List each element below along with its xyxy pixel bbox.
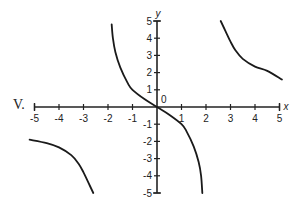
- x-tick-label: 2: [203, 113, 209, 124]
- y-tick-label: -2: [143, 136, 152, 147]
- y-tick-label: 1: [146, 84, 152, 95]
- origin-label: 0: [161, 94, 167, 105]
- curve-right-branch: [221, 21, 282, 79]
- y-axis-label: y: [155, 8, 162, 19]
- x-axis-label: x: [283, 101, 290, 112]
- curve-left-branch: [30, 140, 94, 193]
- y-tick-label: -1: [143, 119, 152, 130]
- x-tick-label: -1: [128, 113, 137, 124]
- y-tick-label: 5: [146, 16, 152, 27]
- y-tick-label: -4: [143, 170, 152, 181]
- y-tick-label: -3: [143, 153, 152, 164]
- y-tick-label: 3: [146, 50, 152, 61]
- x-tick-label: -2: [104, 113, 113, 124]
- x-tick-label: 3: [228, 113, 234, 124]
- x-tick-label: -3: [79, 113, 88, 124]
- x-tick-label: 4: [252, 113, 258, 124]
- y-tick-label: 4: [146, 33, 152, 44]
- x-tick-label: -5: [30, 113, 39, 124]
- y-tick-label: -5: [143, 188, 152, 199]
- x-tick-label: -4: [55, 113, 64, 124]
- function-graph: -5-4-3-2-11234554321-1-2-3-4-50xy: [0, 0, 301, 211]
- y-tick-label: 2: [146, 67, 152, 78]
- axes: -5-4-3-2-11234554321-1-2-3-4-50xy: [30, 8, 289, 199]
- x-tick-label: 5: [277, 113, 283, 124]
